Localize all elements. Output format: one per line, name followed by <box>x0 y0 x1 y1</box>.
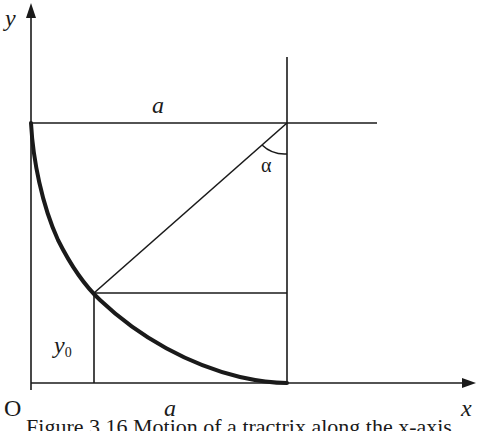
y0-label-main: y <box>54 332 65 358</box>
y0-label: y0 <box>54 333 72 357</box>
y-axis-label: y <box>5 6 16 30</box>
tangent-segment <box>94 123 287 293</box>
top-length-label: a <box>152 93 164 117</box>
diagram-graphics <box>0 0 478 431</box>
y-axis-arrow-icon <box>26 3 36 18</box>
angle-arc <box>262 145 287 154</box>
y0-label-subscript: 0 <box>65 345 72 360</box>
figure-caption: Figure 3.16 Motion of a tractrix along t… <box>0 414 478 431</box>
tractrix-diagram: y x O a a α y0 Figure 3.16 Motion of a t… <box>0 0 478 431</box>
x-axis-arrow-icon <box>462 378 476 388</box>
angle-alpha-label: α <box>261 155 271 175</box>
